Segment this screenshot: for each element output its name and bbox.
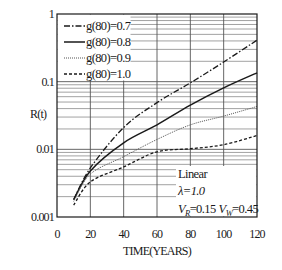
legend-label: g(80)=1.0 [86,67,131,81]
x-tick-label: 120 [249,227,265,241]
y-tick-label: 0.001 [31,210,55,224]
x-tick-label: 40 [118,227,129,241]
x-tick-label: 60 [152,227,163,241]
y-tick-label: 0.01 [36,142,55,156]
x-tick-label: 20 [85,227,96,241]
variance-label: VR=0.15VW=0.45 [178,202,258,218]
x-axis-label: TIME(YEARS) [123,244,192,258]
y-tick-label: 0.1 [41,75,54,89]
legend-label: g(80)=0.8 [86,35,131,49]
legend-label: g(80)=0.9 [86,51,131,65]
x-tick-label: 80 [185,227,196,241]
x-tick-label: 100 [216,227,232,241]
x-tick-label: 0 [54,227,60,241]
y-axis-label: R(t) [30,107,47,121]
y-tick-label: 1 [49,7,55,21]
lambda-label: λ=1.0 [177,184,206,198]
chart: 0204060801001200.0010.010.11 R(t) TIME(Y… [0,0,282,270]
model-label: Linear [178,167,208,181]
legend-label: g(80)=0.7 [86,19,131,33]
